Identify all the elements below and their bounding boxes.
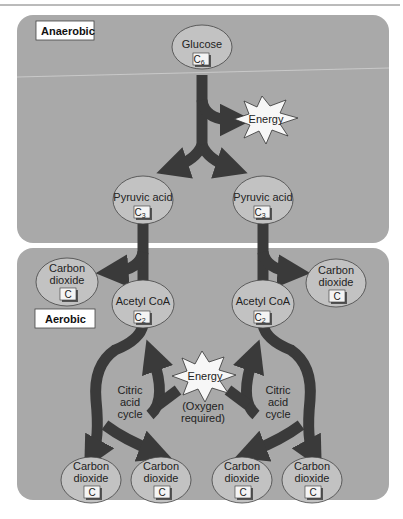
svg-text:Pyruvic acid: Pyruvic acid <box>113 191 172 203</box>
citric-cycle-right: Citric acid cycle <box>265 384 291 420</box>
carbon-dioxide-top-left-node: Carbon dioxide C <box>36 258 98 306</box>
svg-text:C: C <box>158 487 165 498</box>
carbon-dioxide-bottom-2-node: Carbon dioxide C <box>131 457 191 503</box>
svg-text:cycle: cycle <box>265 408 290 420</box>
svg-text:acid: acid <box>268 396 288 408</box>
svg-text:Glucose: Glucose <box>182 38 222 50</box>
svg-text:acid: acid <box>120 396 140 408</box>
carbon-dioxide-bottom-1-node: Carbon dioxide C <box>61 457 121 503</box>
svg-text:Carbon: Carbon <box>143 460 179 472</box>
glucose-node: Glucose C6 <box>172 25 232 69</box>
oxygen-note-line1: (Oxygen <box>182 400 224 412</box>
svg-text:Carbon: Carbon <box>294 460 330 472</box>
svg-text:Acetyl CoA: Acetyl CoA <box>236 295 291 307</box>
cellular-respiration-diagram: Anaerobic Aerobic Energy <box>0 0 403 519</box>
anaerobic-label-box: Anaerobic <box>36 21 95 40</box>
acetyl-coa-right-node: Acetyl CoA C2 <box>232 280 294 328</box>
svg-text:C: C <box>88 487 95 498</box>
svg-text:dioxide: dioxide <box>50 274 85 286</box>
svg-text:C: C <box>333 291 340 302</box>
svg-text:Citric: Citric <box>117 384 143 396</box>
svg-text:Carbon: Carbon <box>49 262 85 274</box>
svg-text:Carbon: Carbon <box>224 460 260 472</box>
acetyl-coa-left-node: Acetyl CoA C2 <box>112 280 174 328</box>
svg-text:dioxide: dioxide <box>74 472 109 484</box>
pyruvic-acid-left-node: Pyruvic acid C3 <box>113 176 173 224</box>
citric-cycle-left: Citric acid cycle <box>117 384 143 420</box>
oxygen-note-line2: required) <box>181 412 225 424</box>
aerobic-label: Aerobic <box>45 313 86 325</box>
svg-text:dioxide: dioxide <box>144 472 179 484</box>
carbon-dioxide-bottom-4-node: Carbon dioxide C <box>282 457 342 503</box>
svg-text:Citric: Citric <box>265 384 291 396</box>
pyruvic-acid-right-node: Pyruvic acid C3 <box>233 176 293 224</box>
svg-text:C: C <box>309 487 316 498</box>
svg-text:dioxide: dioxide <box>295 472 330 484</box>
svg-text:Pyruvic acid: Pyruvic acid <box>233 191 292 203</box>
energy-top-label: Energy <box>249 113 284 125</box>
carbon-dioxide-bottom-3-node: Carbon dioxide C <box>212 457 272 503</box>
svg-text:Carbon: Carbon <box>318 264 354 276</box>
energy-middle-label: Energy <box>188 370 223 382</box>
svg-text:C: C <box>239 487 246 498</box>
svg-text:dioxide: dioxide <box>225 472 260 484</box>
svg-text:Acetyl CoA: Acetyl CoA <box>116 295 171 307</box>
anaerobic-label: Anaerobic <box>41 25 95 37</box>
svg-text:dioxide: dioxide <box>319 276 354 288</box>
aerobic-label-box: Aerobic <box>35 309 95 328</box>
carbon-dioxide-top-right-node: Carbon dioxide C <box>306 259 366 307</box>
svg-text:C: C <box>64 289 71 300</box>
svg-text:Carbon: Carbon <box>73 460 109 472</box>
svg-text:cycle: cycle <box>117 408 142 420</box>
